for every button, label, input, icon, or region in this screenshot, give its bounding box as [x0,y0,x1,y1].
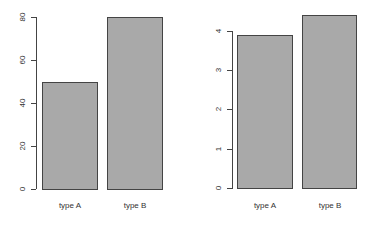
left-y-tick-label: 0 [18,179,28,199]
left-x-label-type-b: type B [107,201,163,210]
left-y-tick-label: 60 [18,50,28,70]
left-y-tick [31,189,36,190]
right-y-tick [227,31,232,32]
right-y-axis [232,31,233,189]
left-bar-type-b [107,17,163,190]
right-x-label-type-b: type B [302,201,358,210]
left-y-tick [31,60,36,61]
left-y-tick [31,146,36,147]
right-x-label-type-a: type A [237,201,293,210]
right-bar-type-b [302,15,357,189]
left-y-tick [31,17,36,18]
right-y-tick-label: 2 [214,99,224,119]
left-y-tick-label: 40 [18,93,28,113]
left-bar-type-a [42,82,98,190]
right-y-tick [227,109,232,110]
right-y-tick-label: 3 [214,60,224,80]
left-y-tick-label: 80 [18,7,28,27]
right-bar-type-a [237,35,293,189]
right-y-tick [227,70,232,71]
left-bar-chart: 0 20 40 60 80 type A type B [0,0,186,225]
left-y-tick [31,103,36,104]
right-bar-chart: 0 1 2 3 4 type A type B [186,0,372,225]
right-y-tick [227,149,232,150]
left-y-tick-label: 20 [18,136,28,156]
right-y-tick-label: 4 [214,21,224,41]
left-y-axis [36,17,37,189]
right-y-tick-label: 0 [214,178,224,198]
right-y-tick-label: 1 [214,139,224,159]
right-y-tick [227,188,232,189]
left-x-label-type-a: type A [42,201,98,210]
